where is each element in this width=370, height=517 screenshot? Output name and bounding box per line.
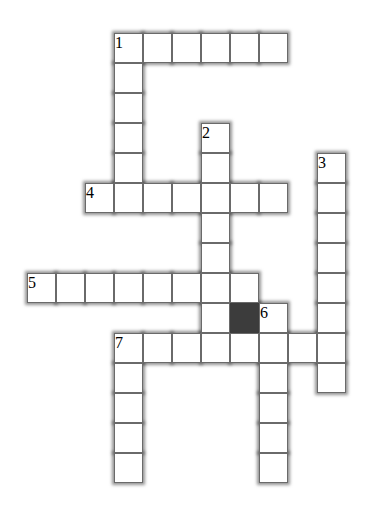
cell-border: 1 — [114, 33, 143, 63]
cell-border — [230, 33, 259, 63]
cell-border — [259, 183, 288, 213]
cell-border: 5 — [27, 273, 56, 303]
cell-border — [317, 303, 346, 333]
cell-border — [230, 273, 259, 303]
cell-border — [317, 333, 346, 363]
clue-number: 2 — [202, 124, 210, 141]
cell-border — [230, 333, 259, 363]
cell-border — [288, 333, 317, 363]
cell-border — [259, 333, 288, 363]
cell-border: 3 — [317, 153, 346, 183]
cell-border — [317, 243, 346, 273]
cell-border — [259, 363, 288, 393]
cell-border — [172, 333, 201, 363]
cell-border — [317, 363, 346, 393]
cell-border — [114, 363, 143, 393]
cell-border — [114, 453, 143, 483]
cell-border — [201, 153, 230, 183]
cell-border — [56, 273, 85, 303]
clue-number: 4 — [86, 184, 94, 201]
cell-border — [317, 183, 346, 213]
cell-border — [114, 273, 143, 303]
cell-border — [114, 153, 143, 183]
cell-border — [317, 273, 346, 303]
cell-border — [85, 273, 114, 303]
cell-border: 2 — [201, 123, 230, 153]
cell-border — [201, 243, 230, 273]
cell-border — [114, 423, 143, 453]
cell-border — [172, 273, 201, 303]
clue-number: 5 — [28, 274, 36, 291]
cell-border — [172, 183, 201, 213]
cell-border: 6 — [259, 303, 288, 333]
cell-border — [201, 213, 230, 243]
cell-border — [201, 273, 230, 303]
cell-border — [114, 123, 143, 153]
clue-number: 7 — [115, 334, 123, 351]
clue-number: 3 — [318, 154, 326, 171]
cell-border — [201, 303, 230, 333]
cell-border — [143, 183, 172, 213]
cell-border — [259, 33, 288, 63]
cell-border — [259, 423, 288, 453]
cell-border — [201, 33, 230, 63]
crossword-grid: 1234567 — [0, 0, 370, 517]
cell-border: 4 — [85, 183, 114, 213]
cell-border — [143, 33, 172, 63]
clue-number: 6 — [260, 304, 268, 321]
cell-border — [201, 183, 230, 213]
cell-border — [317, 213, 346, 243]
cell-border — [230, 183, 259, 213]
clue-number: 1 — [115, 34, 123, 51]
cell-border — [230, 303, 259, 333]
cell-border — [114, 93, 143, 123]
cell-border — [201, 333, 230, 363]
cell-border — [114, 183, 143, 213]
cell-border — [172, 33, 201, 63]
cell-border: 7 — [114, 333, 143, 363]
cell-border — [259, 393, 288, 423]
cell-border — [114, 393, 143, 423]
cell-border — [259, 453, 288, 483]
cell-border — [143, 273, 172, 303]
cell-border — [114, 63, 143, 93]
cell-border — [143, 333, 172, 363]
